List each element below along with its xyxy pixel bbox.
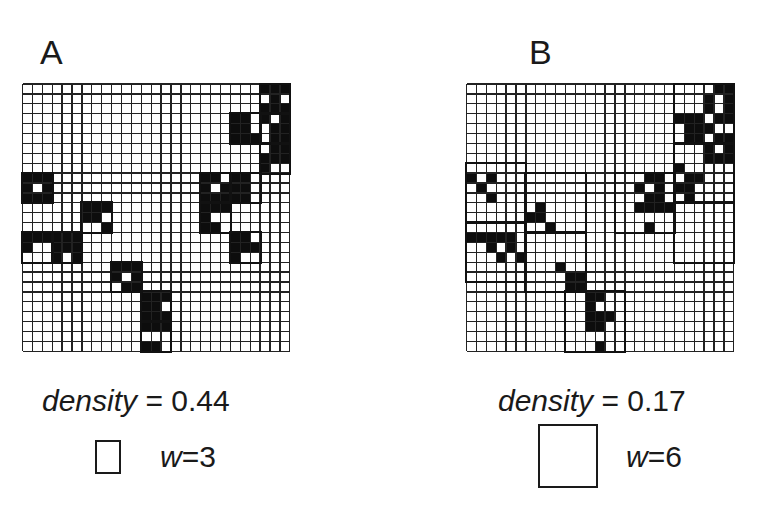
density-label-b: density = 0.17 [498, 384, 686, 418]
window-box [140, 290, 173, 323]
grid-line-h [23, 93, 290, 94]
grid-line-h [23, 281, 290, 282]
matrix-grid-a [23, 84, 290, 351]
window-box [673, 142, 735, 204]
grid-line-h [23, 163, 290, 164]
window-size-icon-b [538, 424, 598, 488]
window-box [229, 172, 262, 205]
grid-line-h [23, 83, 290, 84]
window-box [21, 231, 54, 264]
window-box [259, 83, 292, 116]
window-var: w [160, 440, 182, 473]
window-box [524, 172, 586, 234]
window-box [524, 231, 586, 293]
window-box [465, 162, 527, 224]
grid-line-h [23, 153, 290, 154]
density-value: = 0.17 [593, 384, 686, 417]
window-box [614, 172, 676, 234]
window-box [199, 201, 232, 234]
window-box [51, 231, 84, 264]
window-box [80, 201, 113, 234]
panel-label-a: A [40, 35, 63, 69]
window-box [259, 112, 292, 145]
window-box [140, 320, 173, 353]
window-box [21, 172, 54, 205]
panel-label-b: B [529, 35, 552, 69]
window-value: =6 [648, 440, 682, 473]
window-box [465, 221, 527, 283]
window-box [199, 172, 232, 205]
window-box [229, 112, 262, 145]
window-size-label-a: w=3 [160, 440, 216, 474]
window-box [259, 142, 292, 175]
density-value: = 0.44 [137, 384, 230, 417]
density-var: density [498, 384, 593, 417]
window-box [229, 231, 262, 264]
grid-line-h [23, 212, 290, 213]
window-box [673, 83, 735, 145]
grid-line-h [23, 222, 290, 223]
window-value: =3 [182, 440, 216, 473]
matrix-grid-b [467, 84, 734, 351]
density-label-a: density = 0.44 [42, 384, 230, 418]
density-var: density [42, 384, 137, 417]
window-box [673, 201, 735, 263]
window-box [110, 261, 143, 294]
window-box [564, 290, 626, 352]
window-var: w [626, 440, 648, 473]
grid-line-h [23, 103, 290, 104]
grid-line-h [23, 271, 290, 272]
window-size-label-b: w=6 [626, 440, 682, 474]
window-size-icon-a [95, 440, 121, 474]
